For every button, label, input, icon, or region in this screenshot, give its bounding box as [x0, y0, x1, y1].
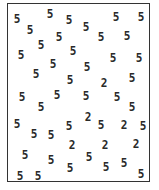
distractor-glyph[interactable]: 5	[112, 11, 121, 23]
distractor-glyph[interactable]: 5	[26, 24, 35, 36]
distractor-glyph[interactable]: 5	[97, 31, 106, 43]
distractor-glyph[interactable]: 5	[85, 151, 94, 163]
target-glyph[interactable]: 2	[120, 119, 129, 131]
distractor-glyph[interactable]: 5	[66, 74, 75, 86]
distractor-glyph[interactable]: 5	[123, 30, 132, 42]
distractor-glyph[interactable]: 5	[32, 68, 41, 80]
target-glyph[interactable]: 2	[84, 111, 93, 123]
distractor-glyph[interactable]: 5	[53, 89, 62, 101]
distractor-glyph[interactable]: 5	[135, 52, 144, 64]
distractor-glyph[interactable]: 5	[65, 120, 74, 132]
distractor-glyph[interactable]: 5	[17, 49, 26, 61]
distractor-glyph[interactable]: 5	[66, 162, 75, 174]
distractor-glyph[interactable]: 5	[102, 161, 111, 173]
distractor-glyph[interactable]: 5	[82, 90, 91, 102]
distractor-glyph[interactable]: 5	[30, 128, 39, 140]
distractor-glyph[interactable]: 5	[120, 157, 129, 169]
distractor-glyph[interactable]: 5	[82, 21, 91, 33]
distractor-glyph[interactable]: 5	[128, 101, 137, 113]
distractor-glyph[interactable]: 5	[137, 11, 146, 23]
distractor-glyph[interactable]: 5	[16, 170, 25, 182]
distractor-glyph[interactable]: 5	[128, 72, 137, 84]
distractor-glyph[interactable]: 5	[47, 154, 56, 166]
distractor-glyph[interactable]: 5	[46, 8, 55, 20]
distractor-glyph[interactable]: 5	[137, 168, 146, 180]
distractor-glyph[interactable]: 5	[13, 118, 22, 130]
distractor-glyph[interactable]: 5	[113, 91, 122, 103]
distractor-glyph[interactable]: 5	[37, 101, 46, 113]
distractor-glyph[interactable]: 5	[21, 149, 30, 161]
distractor-glyph[interactable]: 5	[49, 58, 58, 70]
distractor-glyph[interactable]: 5	[139, 120, 148, 132]
target-glyph[interactable]: 2	[68, 139, 77, 151]
distractor-glyph[interactable]: 5	[37, 39, 46, 51]
distractor-glyph[interactable]: 5	[13, 13, 22, 25]
target-glyph[interactable]: 2	[100, 77, 109, 89]
distractor-glyph[interactable]: 5	[83, 61, 92, 73]
distractor-glyph[interactable]: 5	[109, 52, 118, 64]
target-glyph[interactable]: 2	[101, 139, 110, 151]
distractor-glyph[interactable]: 5	[69, 45, 78, 57]
distractor-glyph[interactable]: 5	[55, 31, 64, 43]
distractor-glyph[interactable]: 5	[34, 170, 43, 182]
distractor-glyph[interactable]: 5	[97, 119, 106, 131]
distractor-glyph[interactable]: 5	[18, 91, 27, 103]
distractor-glyph[interactable]: 5	[47, 129, 56, 141]
distractor-glyph[interactable]: 5	[65, 14, 74, 26]
target-glyph[interactable]: 2	[132, 138, 141, 150]
